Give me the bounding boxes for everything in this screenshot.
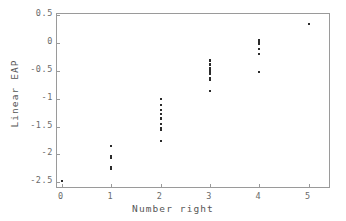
data-point [258, 53, 260, 55]
y-axis-tick [57, 127, 60, 128]
x-axis-tick [161, 184, 162, 187]
data-point [209, 79, 211, 81]
y-axis-tick [57, 43, 60, 44]
x-axis-tick [309, 184, 310, 187]
y-axis-tick-label: -1 [42, 93, 53, 102]
data-point [160, 129, 162, 131]
data-point [308, 23, 310, 25]
x-axis-tick-label: 2 [145, 192, 175, 201]
y-axis-tick-label: -2 [42, 148, 53, 157]
y-axis-tick-label: -2.5 [30, 176, 53, 185]
y-axis-tick-label: -0.5 [30, 65, 53, 74]
x-axis-tick-label: 5 [293, 192, 323, 201]
data-point [209, 90, 211, 92]
plot-area [57, 14, 329, 187]
data-point [258, 43, 260, 45]
data-point [61, 180, 63, 182]
x-axis-tick-label: 4 [243, 192, 273, 201]
data-point [160, 113, 162, 115]
data-point [160, 98, 162, 100]
x-axis-tick-label: 1 [95, 192, 125, 201]
data-point [160, 118, 162, 120]
x-axis-tick [259, 184, 260, 187]
plot-frame [56, 13, 330, 188]
data-point [258, 71, 260, 73]
y-axis-tick [57, 182, 60, 183]
y-axis-tick-label: 0 [47, 37, 53, 46]
data-point [110, 155, 112, 157]
data-point [160, 140, 162, 142]
y-axis-title: Linear EAP [9, 34, 20, 154]
y-axis-tick [57, 99, 60, 100]
x-axis-tick [210, 184, 211, 187]
y-axis-tick [57, 71, 60, 72]
data-point [209, 73, 211, 75]
data-point [160, 109, 162, 111]
y-axis-tick-label: -1.5 [30, 121, 53, 130]
data-point [110, 157, 112, 159]
x-axis-tick [111, 184, 112, 187]
y-axis-tick [57, 154, 60, 155]
x-axis-tick-label: 3 [194, 192, 224, 201]
data-point [110, 168, 112, 170]
y-axis-tick-label: 0.5 [36, 9, 53, 18]
data-point [110, 145, 112, 147]
x-axis-tick [62, 184, 63, 187]
x-axis-tick-label: 0 [46, 192, 76, 201]
data-point [258, 48, 260, 50]
y-axis-tick [57, 15, 60, 16]
scatter-plot-figure: 0.50-0.5-1-1.5-2-2.5012345 Number right … [0, 0, 346, 221]
x-axis-title: Number right [0, 203, 346, 214]
data-point [160, 104, 162, 106]
data-point [209, 60, 211, 62]
data-point [160, 123, 162, 125]
